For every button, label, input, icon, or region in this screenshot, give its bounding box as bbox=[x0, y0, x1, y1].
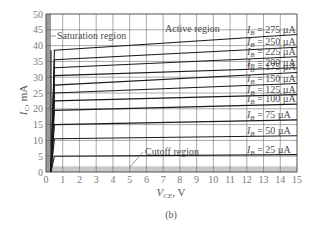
x-tick-label: 13 bbox=[259, 174, 269, 185]
y-tick-label: 5 bbox=[38, 151, 43, 162]
x-tick-label: 3 bbox=[94, 174, 99, 185]
x-tick-label: 5 bbox=[127, 174, 132, 185]
x-tick-label: 6 bbox=[144, 174, 149, 185]
x-tick-label: 8 bbox=[177, 174, 182, 185]
y-tick-label: 30 bbox=[33, 72, 43, 83]
active-region-label: Active region bbox=[165, 23, 220, 34]
x-tick-label: 4 bbox=[110, 174, 115, 185]
x-tick-label: 11 bbox=[225, 174, 235, 185]
x-tick-label: 1 bbox=[60, 174, 65, 185]
y-tick-label: 50 bbox=[33, 9, 43, 20]
y-axis-label: IC, mA bbox=[17, 85, 31, 116]
x-tick-label: 15 bbox=[292, 174, 302, 185]
x-tick-label: 0 bbox=[44, 174, 49, 185]
x-tick-label: 12 bbox=[242, 174, 252, 185]
cutoff-region-label: Cutoff region bbox=[145, 146, 199, 157]
y-tick-label: 0 bbox=[38, 167, 43, 178]
x-tick-label: 2 bbox=[77, 174, 82, 185]
x-tick-label: 10 bbox=[208, 174, 218, 185]
figure-caption: (b) bbox=[165, 209, 177, 221]
y-tick-label: 35 bbox=[33, 56, 43, 67]
x-axis-label: VCE, V bbox=[157, 186, 186, 200]
y-tick-label: 45 bbox=[33, 24, 43, 35]
x-tick-label: 14 bbox=[275, 174, 285, 185]
x-tick-label: 7 bbox=[161, 174, 166, 185]
transistor-characteristic-chart: 0510152025303540455001234567891011121314… bbox=[0, 0, 315, 227]
y-tick-label: 25 bbox=[33, 88, 43, 99]
y-tick-label: 20 bbox=[33, 103, 43, 114]
cutoff-band bbox=[46, 166, 297, 172]
y-tick-label: 10 bbox=[33, 135, 43, 146]
x-tick-label: 9 bbox=[194, 174, 199, 185]
y-tick-label: 15 bbox=[33, 119, 43, 130]
y-tick-label: 40 bbox=[33, 40, 43, 51]
saturation-region-label: Saturation region bbox=[57, 30, 126, 41]
